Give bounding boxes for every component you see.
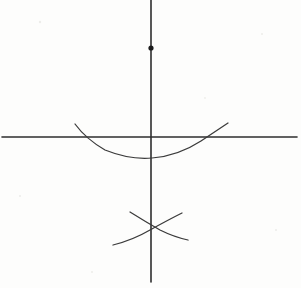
paper-speck (91, 271, 93, 273)
sketch-page (0, 0, 301, 288)
paper-speck (275, 229, 277, 231)
paper-speck (19, 195, 21, 197)
paper-speck (261, 33, 263, 35)
marked-point-on-y-axis (148, 45, 153, 50)
coordinate-plane-sketch (0, 0, 301, 288)
paper-speck (39, 21, 41, 23)
paper-speck (204, 97, 206, 99)
